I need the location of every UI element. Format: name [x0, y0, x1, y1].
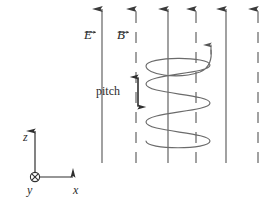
- x-axis-label: x: [73, 184, 78, 196]
- figure-canvas: [0, 0, 280, 204]
- pitch-label: pitch: [96, 85, 120, 97]
- magnetic-field-symbol: B: [117, 27, 125, 42]
- magnetic-field-label: B: [117, 28, 125, 41]
- helix-trajectory: [146, 45, 211, 148]
- y-axis-into-page-icon: [30, 172, 39, 181]
- physics-figure: E B pitch z y x: [0, 0, 280, 204]
- y-axis-label: y: [27, 184, 32, 196]
- z-axis-label: z: [23, 131, 28, 143]
- electric-field-label: E: [84, 28, 92, 41]
- coordinate-axes: [30, 131, 73, 182]
- field-lines-group: [102, 9, 258, 163]
- electric-field-symbol: E: [84, 27, 92, 42]
